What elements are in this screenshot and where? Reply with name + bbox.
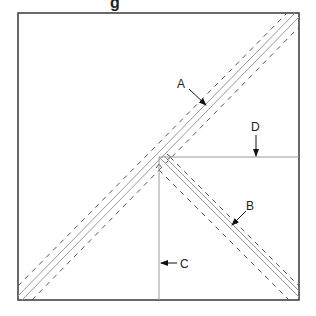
title-fragment: g: [110, 0, 120, 11]
diagonal-seam-b: [156, 154, 299, 300]
label-d: D: [251, 120, 260, 134]
seam-diagram: g A B C D: [0, 0, 316, 316]
callout-d: D: [251, 120, 260, 156]
arrow-b-icon: [232, 211, 246, 225]
callout-b: B: [232, 199, 254, 225]
label-c: C: [180, 257, 189, 271]
arrow-a-icon: [189, 89, 206, 105]
callout-a: A: [177, 77, 206, 105]
callout-c: C: [161, 257, 189, 271]
label-b: B: [246, 199, 254, 213]
label-a: A: [177, 77, 185, 91]
dashed-line-b-lower: [159, 170, 289, 300]
dashed-line-b-upper: [170, 157, 299, 286]
